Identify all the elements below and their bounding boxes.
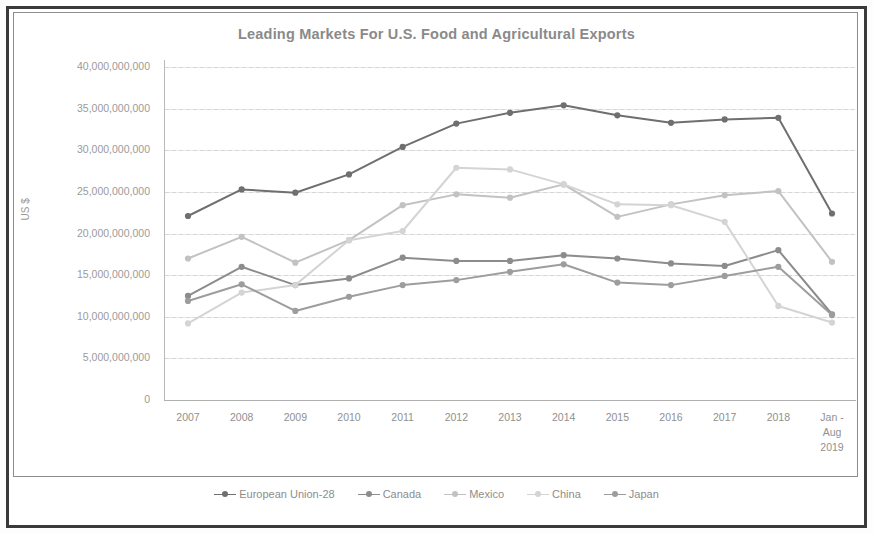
x-tick-label: 2008 [216,410,268,425]
data-point [239,234,245,240]
data-point [561,261,567,267]
data-point [829,259,835,265]
data-point [507,110,513,116]
legend-marker-icon [214,490,236,499]
x-tick-label: 2016 [645,410,697,425]
data-point [292,282,298,288]
x-tick-label: 2009 [269,410,321,425]
data-point [507,195,513,201]
data-point [775,115,781,121]
data-point [614,280,620,286]
data-point [400,282,406,288]
data-point [561,252,567,258]
data-point [722,273,728,279]
data-point [453,191,459,197]
data-point [239,186,245,192]
legend-label: China [551,488,581,500]
data-point [507,258,513,264]
data-point [775,188,781,194]
data-point [453,258,459,264]
data-point [185,298,191,304]
data-point [829,312,835,318]
x-tick-label: 2014 [538,410,590,425]
data-point [400,255,406,261]
data-point [453,121,459,127]
data-point [614,255,620,261]
data-point [400,144,406,150]
data-point [346,275,352,281]
legend-item-canada[interactable]: Canada [358,488,422,500]
series-european-union-28 [185,102,835,219]
data-point [722,219,728,225]
x-tick-label: 2010 [323,410,375,425]
legend-item-mexico[interactable]: Mexico [444,488,504,500]
chart-figure: Leading Markets For U.S. Food and Agricu… [0,0,873,534]
data-point [722,263,728,269]
x-tick-label: 2011 [377,410,429,425]
x-tick-label: 2007 [162,410,214,425]
legend-item-china[interactable]: China [527,488,581,500]
x-tick-label: 2018 [752,410,804,425]
legend-label: Canada [382,488,422,500]
x-tick-label: 2013 [484,410,536,425]
data-point [292,260,298,266]
chart-legend: European Union-28CanadaMexicoChinaJapan [0,488,873,500]
data-point [400,202,406,208]
series-canada [185,247,835,317]
data-point [829,319,835,325]
data-point [722,192,728,198]
legend-label: Japan [628,488,659,500]
series-japan [185,261,835,318]
data-point [453,277,459,283]
data-point [239,290,245,296]
data-point [185,213,191,219]
data-point [561,102,567,108]
data-point [668,282,674,288]
data-point [614,214,620,220]
legend-marker-icon [604,490,626,499]
legend-label: Mexico [468,488,504,500]
x-tick-label: Jan - Aug 2019 [806,410,858,455]
legend-label: European Union-28 [238,488,334,500]
data-point [775,303,781,309]
data-point [668,260,674,266]
data-point [239,264,245,270]
data-point [507,269,513,275]
legend-item-european-union-28[interactable]: European Union-28 [214,488,334,500]
legend-item-japan[interactable]: Japan [604,488,659,500]
series-china [185,165,835,327]
legend-marker-icon [358,490,380,499]
data-point [292,308,298,314]
x-tick-label: 2012 [430,410,482,425]
data-point [346,171,352,177]
data-point [185,255,191,261]
data-point [346,294,352,300]
legend-marker-icon [444,490,466,499]
data-point [346,237,352,243]
x-tick-label: 2017 [699,410,751,425]
data-point [400,228,406,234]
data-point [668,120,674,126]
data-point [561,181,567,187]
data-point [829,210,835,216]
data-point [185,320,191,326]
data-point [453,165,459,171]
data-point [292,190,298,196]
data-point [507,166,513,172]
data-point [668,202,674,208]
data-point [239,281,245,287]
data-point [775,247,781,253]
x-tick-label: 2015 [591,410,643,425]
data-point [775,264,781,270]
series-mexico [185,181,835,265]
legend-marker-icon [527,490,549,499]
data-point [722,116,728,122]
x-axis-tick-labels: 2007200820092010201120122013201420152016… [165,410,855,480]
data-point [614,201,620,207]
data-point [614,112,620,118]
